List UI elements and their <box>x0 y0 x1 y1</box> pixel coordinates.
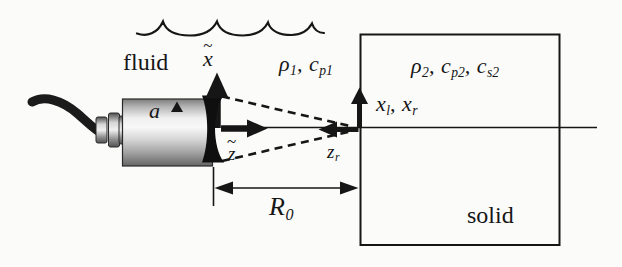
medium1-properties-label: ρ1, cp1 <box>279 53 333 77</box>
r0-letter: R <box>269 192 285 221</box>
medium2-rho-sub: 2 <box>422 65 429 80</box>
x-axis-arrowhead-icon <box>206 73 229 99</box>
beam-edge-upper-dashed <box>222 97 352 127</box>
medium1-c: , c <box>297 51 319 76</box>
zr-sub: r <box>335 151 340 164</box>
coord-xr-sub: r <box>412 103 417 118</box>
medium2-cs: , c <box>465 53 487 78</box>
transducer-cable <box>32 99 98 131</box>
fluid-label: fluid <box>123 50 168 74</box>
connector-ring-1 <box>96 117 107 143</box>
medium2-cp-sub: p2 <box>451 65 465 80</box>
figure-canvas: fluid ~ x ρ1, cp1 ρ2, cp2, cs2 xl, xr a … <box>0 0 622 267</box>
z-axis-letter: z <box>228 145 235 162</box>
medium1-rho: ρ <box>279 51 290 76</box>
z-axis-label: ~ z <box>227 134 236 162</box>
zr-letter: z <box>327 141 335 162</box>
r0-arrowhead-right-icon <box>340 182 359 195</box>
medium2-rho: ρ <box>411 53 422 78</box>
medium2-cp: , c <box>429 53 451 78</box>
connector-ring-2 <box>109 113 120 147</box>
zr-label: zr <box>327 142 340 164</box>
x-axis-label: ~ x <box>203 38 213 69</box>
r0-label: R0 <box>269 194 293 223</box>
z-axis-arrowhead-icon <box>247 120 268 138</box>
r0-arrowhead-left-icon <box>215 182 234 195</box>
medium2-properties-label: ρ2, cp2, cs2 <box>411 55 499 79</box>
water-surface-wave-icon <box>137 22 324 36</box>
coord-xl: x <box>376 91 386 116</box>
medium2-cs-sub: s2 <box>487 65 499 80</box>
interface-arrowhead-icon <box>351 88 368 105</box>
radius-label: a <box>149 100 161 122</box>
x-axis-letter: x <box>203 49 213 69</box>
focal-arrowhead-icon <box>319 122 338 138</box>
coord-xr: , x <box>390 91 412 116</box>
solid-label: solid <box>467 203 514 227</box>
transducer-body <box>123 99 213 166</box>
interface-coords-label: xl, xr <box>376 93 418 117</box>
medium1-rho-sub: 1 <box>290 63 297 78</box>
r0-sub: 0 <box>285 206 293 223</box>
diagram-drawing <box>0 0 622 267</box>
medium1-c-sub: p1 <box>319 63 333 78</box>
